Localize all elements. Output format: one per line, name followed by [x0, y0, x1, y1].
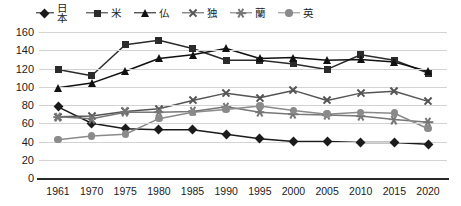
marker-x-icon	[424, 97, 433, 106]
y-axis-tick-label: 0	[28, 173, 34, 184]
marker-square-icon	[155, 37, 162, 44]
y-axis-tick-label: 120	[16, 63, 34, 74]
data-point	[322, 109, 332, 119]
legend-swatch	[86, 8, 108, 18]
legend-label: 日本	[57, 3, 73, 23]
marker-diamond-icon	[154, 125, 164, 135]
legend-item-米[interactable]: 米	[86, 8, 121, 18]
data-point	[188, 107, 198, 117]
gridline	[39, 105, 447, 106]
marker-diamond-icon	[221, 129, 231, 139]
x-axis-tick-label: 1970	[80, 186, 103, 197]
data-point	[154, 125, 164, 135]
data-point	[154, 114, 164, 124]
marker-circle-icon	[424, 125, 432, 133]
data-point	[120, 107, 130, 117]
legend-label: 仏	[159, 8, 169, 18]
data-point	[356, 107, 366, 117]
marker-x-icon	[188, 96, 197, 105]
data-point	[53, 83, 63, 93]
marker-star-icon	[237, 9, 246, 18]
x-axis-tick-label: 1980	[147, 186, 170, 197]
x-axis-tick-label: 1995	[248, 186, 271, 197]
data-point	[154, 53, 164, 63]
data-point	[120, 40, 130, 50]
marker-triangle-icon	[357, 55, 365, 63]
marker-circle-icon	[323, 110, 331, 118]
marker-triangle-icon	[141, 9, 149, 17]
legend-label: 独	[207, 8, 217, 18]
data-point	[423, 66, 433, 76]
data-point	[288, 85, 298, 95]
legend-item-日本[interactable]: 日本	[36, 3, 73, 23]
data-point	[221, 88, 231, 98]
marker-x-icon	[189, 9, 198, 18]
data-point	[389, 86, 399, 96]
legend-swatch	[278, 8, 300, 18]
x-axis-tick-label: 1975	[114, 186, 137, 197]
data-point	[356, 54, 366, 64]
marker-x-icon	[289, 86, 298, 95]
marker-x-icon	[222, 89, 231, 98]
marker-diamond-icon	[389, 137, 399, 147]
marker-triangle-icon	[88, 79, 96, 87]
data-point	[188, 50, 198, 60]
marker-diamond-icon	[53, 102, 63, 112]
data-point	[288, 53, 298, 63]
marker-square-icon	[122, 41, 129, 48]
marker-circle-icon	[222, 106, 230, 114]
gridline	[39, 69, 447, 70]
y-axis: 020406080100120140160	[0, 24, 36, 188]
marker-diamond-icon	[322, 137, 332, 147]
data-point	[288, 105, 298, 115]
marker-triangle-icon	[189, 51, 197, 59]
marker-circle-icon	[256, 102, 264, 110]
plot-area	[39, 32, 447, 178]
marker-x-icon	[390, 87, 399, 96]
marker-triangle-icon	[289, 54, 297, 62]
marker-star-icon	[121, 108, 130, 117]
marker-triangle-icon	[54, 84, 62, 92]
data-point	[188, 95, 198, 105]
x-axis-tick-label: 1961	[46, 186, 69, 197]
data-point	[87, 114, 97, 124]
marker-square-icon	[94, 10, 101, 17]
legend-label: 蘭	[255, 8, 265, 18]
data-point	[120, 129, 130, 139]
marker-diamond-icon	[423, 139, 433, 149]
marker-circle-icon	[391, 109, 399, 117]
marker-circle-icon	[88, 132, 96, 140]
y-axis-tick-label: 160	[16, 27, 34, 38]
legend-item-英[interactable]: 英	[278, 8, 313, 18]
data-point	[255, 134, 265, 144]
data-point	[221, 105, 231, 115]
data-point	[53, 64, 63, 74]
legend-item-蘭[interactable]: 蘭	[230, 8, 265, 18]
marker-triangle-icon	[256, 54, 264, 62]
line-chart: 日本米仏独蘭英 020406080100120140160 1961197019…	[0, 0, 461, 206]
data-point	[423, 139, 433, 149]
chart-legend: 日本米仏独蘭英	[36, 5, 326, 21]
data-point	[322, 55, 332, 65]
marker-triangle-icon	[390, 58, 398, 66]
data-point	[53, 135, 63, 145]
gridline	[39, 160, 447, 161]
marker-diamond-icon	[356, 137, 366, 147]
x-axis-tick-label: 2020	[416, 186, 439, 197]
marker-diamond-icon	[188, 125, 198, 135]
legend-item-仏[interactable]: 仏	[134, 8, 169, 18]
marker-square-icon	[223, 57, 230, 64]
y-axis-tick-label: 20	[22, 154, 34, 165]
x-axis: 1961197019751980198519901995200020052010…	[39, 182, 447, 202]
data-point	[288, 137, 298, 147]
data-point	[87, 78, 97, 88]
marker-triangle-icon	[121, 67, 129, 75]
x-axis-tick-label: 2000	[282, 186, 305, 197]
legend-label: 英	[303, 8, 313, 18]
y-axis-tick-label: 60	[22, 118, 34, 129]
x-axis-tick-label: 2005	[315, 186, 338, 197]
legend-swatch	[134, 8, 156, 18]
y-axis-tick-label: 140	[16, 45, 34, 56]
legend-item-独[interactable]: 独	[182, 8, 217, 18]
data-point	[255, 101, 265, 111]
